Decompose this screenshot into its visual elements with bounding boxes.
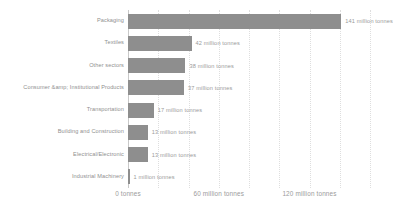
x-tick-label: 120 million tonnes xyxy=(282,190,336,197)
x-axis: 0 tonnes60 million tonnes120 million ton… xyxy=(128,190,370,206)
bar-row[interactable]: 42 million tonnes xyxy=(128,36,370,51)
category-label: Consumer &amp; Institutional Products xyxy=(0,84,124,90)
bar-rows: 141 million tonnes42 million tonnes38 mi… xyxy=(128,10,370,188)
category-label: Textiles xyxy=(0,39,124,45)
bar-row[interactable]: 1 million tonnes xyxy=(128,169,370,184)
bar-value-label: 1 million tonnes xyxy=(130,174,175,180)
bar-value-label: 17 million tonnes xyxy=(154,107,203,113)
category-axis: PackagingTextilesOther sectorsConsumer &… xyxy=(0,10,124,188)
bar-value-label: 13 million tonnes xyxy=(148,152,197,158)
bar[interactable] xyxy=(128,14,341,29)
bar-value-label: 37 million tonnes xyxy=(184,85,233,91)
bar-row[interactable]: 37 million tonnes xyxy=(128,80,370,95)
category-label: Industrial Machinery xyxy=(0,173,124,179)
bar-value-label: 42 million tonnes xyxy=(192,40,241,46)
category-label: Other sectors xyxy=(0,62,124,68)
bar[interactable] xyxy=(128,125,148,140)
category-label: Transportation xyxy=(0,106,124,112)
bar-row[interactable]: 38 million tonnes xyxy=(128,58,370,73)
bar[interactable] xyxy=(128,80,184,95)
bar[interactable] xyxy=(128,36,192,51)
bar[interactable] xyxy=(128,103,154,118)
bar-value-label: 38 million tonnes xyxy=(185,63,234,69)
category-label: Electrical/Electronic xyxy=(0,151,124,157)
x-tick-label: 60 million tonnes xyxy=(193,190,244,197)
bar-value-label: 141 million tonnes xyxy=(341,18,393,24)
gridline xyxy=(370,10,372,188)
x-tick-label: 0 tonnes xyxy=(115,190,141,197)
plot-area: 141 million tonnes42 million tonnes38 mi… xyxy=(128,10,370,188)
category-label: Packaging xyxy=(0,17,124,23)
bar-value-label: 13 million tonnes xyxy=(148,129,197,135)
bar-row[interactable]: 13 million tonnes xyxy=(128,147,370,162)
bar-row[interactable]: 13 million tonnes xyxy=(128,125,370,140)
bar[interactable] xyxy=(128,58,185,73)
bar-row[interactable]: 141 million tonnes xyxy=(128,14,370,29)
bar[interactable] xyxy=(128,147,148,162)
bar-row[interactable]: 17 million tonnes xyxy=(128,103,370,118)
category-label: Building and Construction xyxy=(0,128,124,134)
